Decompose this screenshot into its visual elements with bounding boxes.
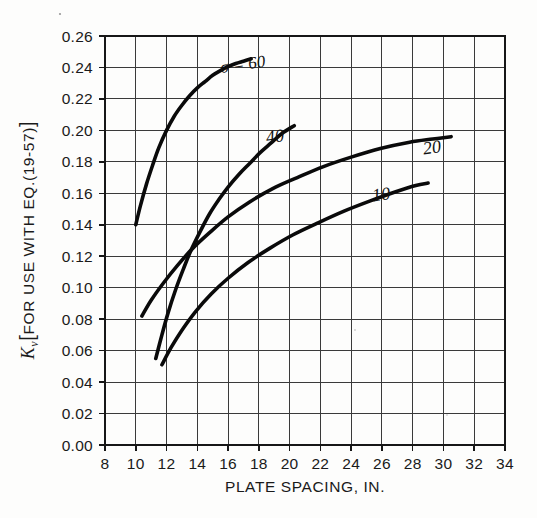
y-axis-title-label: FOR USE WITH EQ.(19-57)	[20, 127, 37, 335]
xtick-label-10: 10	[127, 455, 145, 472]
xtick-label-8: 8	[101, 455, 110, 472]
xtick-label-20: 20	[281, 455, 299, 472]
curve-label-sigma-40: 40	[265, 125, 286, 147]
ytick-label-0.06: 0.06	[62, 342, 93, 359]
ytick-label-0.08: 0.08	[62, 311, 93, 328]
xtick-label-12: 12	[158, 455, 176, 472]
ytick-label-0.1: 0.10	[62, 279, 93, 296]
ytick-label-0.14: 0.14	[62, 216, 93, 233]
scan-speck-3	[446, 414, 448, 416]
ytick-label-0.12: 0.12	[62, 248, 93, 265]
ytick-label-0.04: 0.04	[62, 374, 93, 391]
scan-speck-2	[354, 329, 356, 331]
ytick-label-0.16: 0.16	[62, 185, 93, 202]
chart-svg: 810121416182022242628303234 0.000.020.04…	[0, 0, 537, 518]
ytick-label-0.24: 0.24	[62, 59, 93, 76]
xtick-label-26: 26	[373, 455, 391, 472]
chart-figure: 810121416182022242628303234 0.000.020.04…	[0, 0, 537, 518]
y-axis-symbol: K	[18, 346, 38, 360]
ytick-label-0.22: 0.22	[62, 90, 93, 107]
xtick-label-32: 32	[465, 455, 483, 472]
xtick-label-14: 14	[188, 455, 206, 472]
xtick-label-22: 22	[311, 455, 329, 472]
ytick-label-0.26: 0.26	[62, 28, 93, 45]
scan-speck	[59, 13, 61, 15]
xtick-label-16: 16	[219, 455, 237, 472]
ytick-label-0.02: 0.02	[62, 405, 93, 422]
xtick-label-28: 28	[404, 455, 422, 472]
ytick-label-0.18: 0.18	[62, 153, 93, 170]
curve-label-sigma-10: 10	[371, 183, 392, 205]
y-axis-bracket-close: ]	[16, 121, 38, 127]
xtick-label-24: 24	[342, 455, 360, 472]
xtick-label-30: 30	[435, 455, 453, 472]
x-axis-title: PLATE SPACING, IN.	[225, 478, 385, 495]
ytick-label-0: 0.00	[62, 437, 93, 454]
curve-label-sigma-20: 20	[422, 136, 443, 158]
xtick-label-34: 34	[496, 455, 514, 472]
ytick-label-0.2: 0.20	[62, 122, 93, 139]
xtick-label-18: 18	[250, 455, 268, 472]
